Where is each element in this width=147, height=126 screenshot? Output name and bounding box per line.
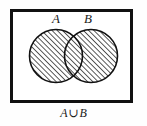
caption-union-operator: ∪ [67,106,79,120]
venn-diagram-figure: A B A∪B [0,0,147,126]
set-b-label: B [84,12,92,25]
caption-set-b: B [80,106,87,120]
set-a-label: A [52,12,60,25]
figure-caption: A∪B [0,106,147,120]
